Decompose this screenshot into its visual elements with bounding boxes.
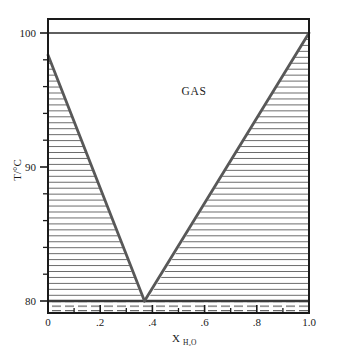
x-tick-label-1.0: 1.0: [302, 316, 316, 328]
gas-region-label: GAS: [182, 85, 207, 97]
x-tick-label-0.8: .8: [253, 316, 262, 328]
x-tick-label-0.2: .2: [96, 316, 104, 328]
x-tick-label-0.4: .4: [148, 316, 157, 328]
x-axis-title-main: X: [172, 332, 180, 344]
x-tick-label-0.6: .6: [200, 316, 209, 328]
x-axis-title: X H₂O: [172, 332, 197, 347]
x-tick-label-0: 0: [45, 316, 51, 328]
y-tick-label-80: 80: [25, 295, 37, 307]
y-axis-ticks: [40, 33, 48, 301]
phase-diagram-svg: 100 90 80 T/°C 0 .2 .4 .6 .8 1.0 X H₂O G…: [0, 0, 348, 349]
y-axis-title: T/°C: [11, 159, 23, 181]
phase-diagram-figure: 100 90 80 T/°C 0 .2 .4 .6 .8 1.0 X H₂O G…: [0, 0, 348, 349]
y-tick-label-100: 100: [20, 27, 37, 39]
y-tick-label-90: 90: [25, 161, 37, 173]
x-axis-title-subscript: H₂O: [183, 338, 197, 347]
